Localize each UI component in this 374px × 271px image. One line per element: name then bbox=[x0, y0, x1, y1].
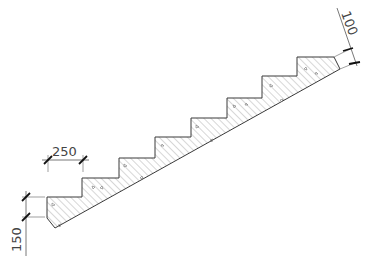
riser-dimension-label: 150 bbox=[9, 227, 24, 252]
tread-dimension: 250 bbox=[42, 144, 89, 172]
stair-section-drawing: 250 150 100 bbox=[0, 0, 374, 271]
riser-dimension: 150 bbox=[9, 191, 45, 256]
slab-thickness-dimension: 100 bbox=[334, 8, 361, 69]
stair-concrete-body bbox=[47, 57, 340, 228]
slab-thickness-label: 100 bbox=[338, 9, 361, 37]
tread-dimension-label: 250 bbox=[52, 144, 77, 159]
